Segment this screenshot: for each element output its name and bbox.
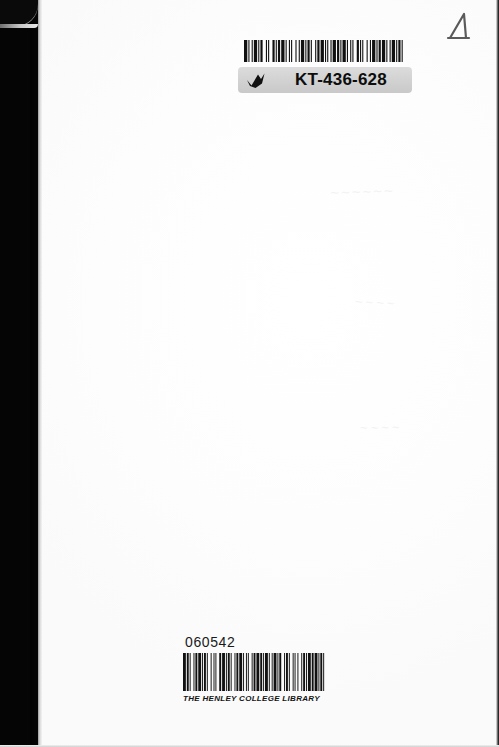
handwritten-triangle-mark: [444, 8, 474, 48]
barcode-top: [244, 40, 406, 62]
tick-icon: [246, 72, 266, 89]
library-name-text: THE HENLEY COLLEGE LIBRARY: [183, 694, 331, 703]
left-dark-scan-band: [0, 0, 38, 747]
kt-barcode-label: KT-436-628: [238, 40, 412, 93]
barcode-bottom: [183, 653, 327, 691]
henley-college-library-label: 060542 THE HENLEY COLLEGE LIBRARY: [183, 634, 331, 703]
kt-code-text: KT-436-628: [274, 67, 408, 93]
book-corner-highlight: [0, 24, 38, 28]
kt-label-band: KT-436-628: [238, 67, 412, 93]
accession-number: 060542: [183, 634, 331, 650]
book-cover-scan: ~~~~~~ ~~~~ ~~~~ KT-436-628 060542 THE H…: [0, 0, 499, 747]
spine-edge-highlight: [38, 0, 42, 747]
